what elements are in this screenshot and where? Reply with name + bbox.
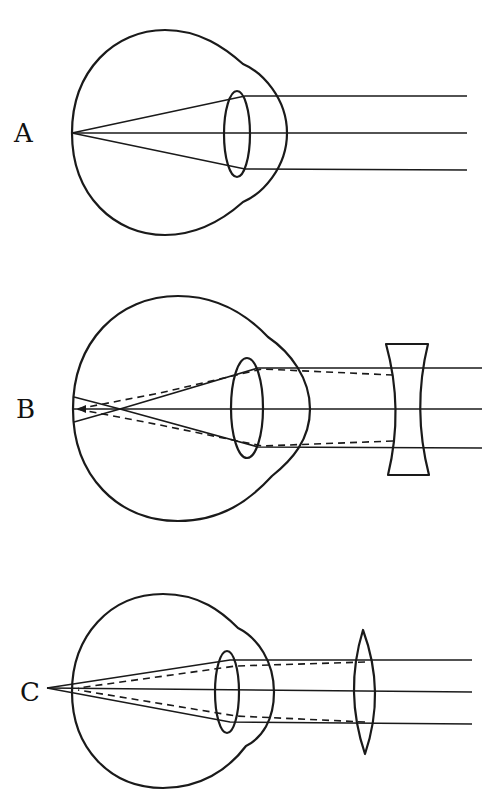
panel-c: C	[20, 594, 472, 788]
panel-b-label: B	[16, 394, 35, 424]
convex-corrective-lens	[354, 630, 375, 754]
corrected-ray-bottom-b	[77, 409, 393, 446]
panel-b: B	[16, 296, 482, 521]
corrected-ray-top-c	[78, 662, 365, 688]
ray-top-a	[72, 96, 467, 133]
panel-a-label: A	[13, 118, 34, 148]
corrected-ray-top-b	[77, 369, 393, 409]
eye-optics-diagram: A B C	[0, 0, 490, 796]
ray-bottom-c	[47, 688, 472, 724]
corrected-ray-bottom-c	[78, 690, 365, 722]
focus-arrowhead-b	[77, 405, 86, 413]
ray-middle-c	[47, 688, 472, 692]
ray-bottom-a	[72, 133, 467, 170]
eyeball-c	[72, 594, 274, 788]
panel-a: A	[13, 30, 467, 235]
crystalline-lens-a	[224, 91, 250, 177]
panel-c-label: C	[20, 677, 40, 707]
